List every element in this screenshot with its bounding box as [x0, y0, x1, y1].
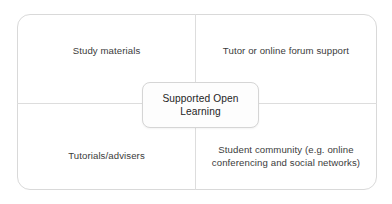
- quadrant-top-left-label: Study materials: [73, 45, 141, 58]
- quadrant-top-right-label: Tutor or online forum support: [223, 45, 349, 58]
- diagram-canvas: Study materials Tutor or online forum su…: [0, 0, 392, 204]
- quadrant-bottom-left-label: Tutorials/advisers: [68, 150, 145, 163]
- center-node: Supported Open Learning: [142, 82, 259, 128]
- center-node-label: Supported Open Learning: [162, 92, 238, 118]
- quadrant-bottom-right-label: Student community (e.g. online conferenc…: [212, 144, 360, 169]
